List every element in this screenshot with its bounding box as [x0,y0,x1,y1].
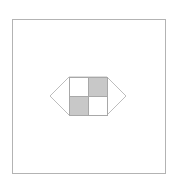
checker-grid [70,78,108,116]
grid-cell [89,78,108,97]
grid-cell [70,78,89,97]
grid-cell [89,97,108,116]
grid-cell [70,97,89,116]
diagram-canvas [0,0,177,184]
